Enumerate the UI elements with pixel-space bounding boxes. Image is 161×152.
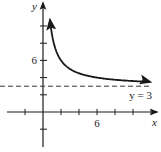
x-axis-label: x xyxy=(151,116,157,128)
chart: x y y = 3 66 xyxy=(0,0,161,152)
y-axis-label: y xyxy=(31,0,37,12)
curve-line xyxy=(50,20,150,82)
asymptote-label: y = 3 xyxy=(129,89,152,101)
ticks xyxy=(25,26,151,129)
x-tick-label: 6 xyxy=(94,117,100,129)
y-tick-label: 6 xyxy=(32,54,38,66)
